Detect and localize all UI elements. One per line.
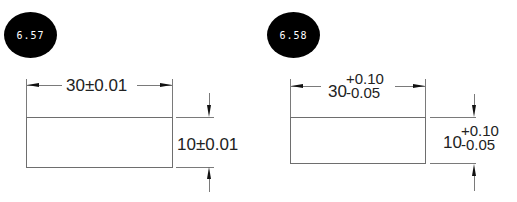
figure-label: 6.57	[16, 30, 44, 41]
extension-line-top	[430, 117, 476, 118]
height-dimension-text: 10±0.01	[177, 136, 238, 153]
height-lower-tolerance: -0.05	[461, 138, 499, 152]
extension-line-right	[172, 79, 173, 117]
width-tolerance: +0.10 -0.05	[346, 72, 384, 101]
arrow-left-icon	[27, 83, 39, 87]
extension-line-right	[425, 79, 426, 117]
figure-label-badge: 6.58	[267, 12, 320, 58]
arrow-right-icon	[160, 83, 172, 87]
part-rectangle	[290, 117, 426, 164]
height-tolerance: +0.10 -0.05	[461, 124, 499, 153]
width-nominal: 30	[328, 83, 347, 100]
height-nominal: 10	[443, 134, 462, 151]
extension-line-top	[176, 117, 214, 118]
arrow-down-icon	[207, 105, 211, 117]
figure-6-57: 6.57 30±0.01 10±0.01	[0, 0, 258, 202]
arrow-down-icon	[472, 105, 476, 117]
dimension-line-bottom	[209, 178, 210, 192]
width-dimension-text: 30±0.01	[66, 77, 127, 94]
arrow-up-icon	[207, 167, 211, 179]
extension-line-bottom	[430, 163, 476, 164]
figure-label-badge: 6.57	[4, 12, 57, 58]
arrow-right-icon	[413, 84, 425, 88]
part-rectangle	[26, 117, 173, 168]
figure-label: 6.58	[279, 30, 307, 41]
arrow-up-icon	[472, 164, 476, 176]
dimension-line-bottom	[474, 175, 475, 191]
arrow-left-icon	[291, 84, 303, 88]
width-lower-tolerance: -0.05	[346, 86, 384, 100]
figure-6-58: 6.58 30 +0.10 -0.05 10 +0.10 -0.05	[258, 0, 517, 202]
